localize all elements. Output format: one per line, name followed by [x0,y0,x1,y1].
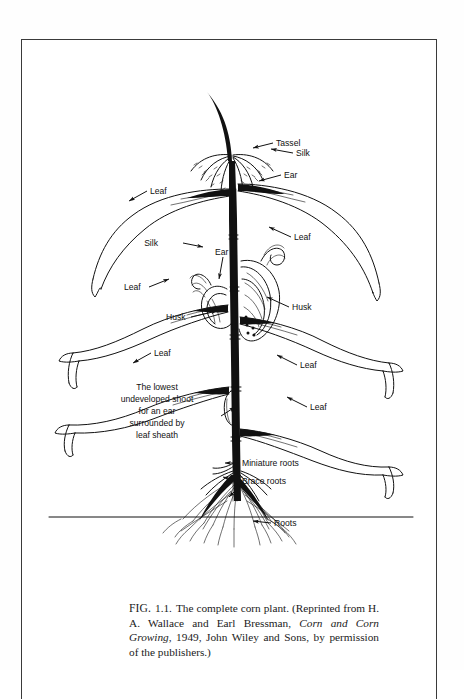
caption-line2-post: , 1949, [169,631,202,643]
svg-text:The lowest: The lowest [136,382,178,392]
miniature-roots-tuft [213,463,234,474]
label-ear-right: Ear [284,170,298,180]
svg-text:leaf sheath: leaf sheath [136,430,178,440]
root-system [49,463,413,547]
leader-leaf-upper-left [129,191,147,201]
label-leaf-lower-left: Leaf [154,348,171,358]
label-silk-left: Silk [144,238,159,248]
leader-tassel [253,143,273,148]
caption-fig-prefix: FIG. [129,602,151,615]
svg-text:for an ear: for an ear [139,406,176,416]
leader-leaf-lower-left [133,353,151,363]
label-leaf-upper-right: Leaf [294,232,311,242]
svg-text:surrounded by: surrounded by [130,418,186,428]
label-leaf-lower-right: Leaf [310,402,327,412]
shoot-note: The lowest undeveloped shoot for an ear … [121,382,194,440]
label-roots: Roots [274,518,296,528]
fibrous-roots [181,479,289,531]
figure-caption: FIG.1.1.The complete corn plant. (Reprin… [129,601,379,659]
leaf-mid-left [59,305,228,389]
label-silk-right: Silk [296,148,311,158]
corn-plant-illustration: .ink { fill:none; stroke:#111; stroke-wi… [21,39,437,599]
label-brace-roots: Brace roots [242,476,286,486]
leaf-upper-right [238,184,380,301]
leader-leaf-mid-left [149,279,169,287]
leader-ear-left [219,257,223,279]
leader-silk-right [271,149,293,153]
ear-right [239,245,285,341]
label-leaf-upper-left: Leaf [150,186,167,196]
svg-text:undeveloped shoot: undeveloped shoot [121,394,194,404]
label-tassel: Tassel [276,138,300,148]
caption-line2-pre: Wallace and Earl Bressman, [148,617,291,629]
leader-roots [253,521,271,523]
leader-leaf-mid-right [277,355,297,365]
label-husk-right: Husk [292,302,312,312]
label-miniature-roots: Miniature roots [242,458,299,468]
label-leaf-mid-left: Leaf [124,282,141,292]
leaf-mid-right [240,317,403,399]
leader-silk-left [183,243,203,247]
ear-left [190,274,233,328]
plant-drawing: Tassel Leaf Silk Ear Leaf Silk Ear Leaf … [49,92,413,547]
label-ear-left: Ear [215,247,229,257]
leader-leaf-upper-right [269,227,291,237]
plant-stem [229,161,242,501]
caption-fig-index: 1.1. [155,602,172,614]
label-husk-left: Husk [166,312,186,322]
leader-leaf-lower-right [287,397,307,407]
label-leaf-mid-right: Leaf [300,360,317,370]
